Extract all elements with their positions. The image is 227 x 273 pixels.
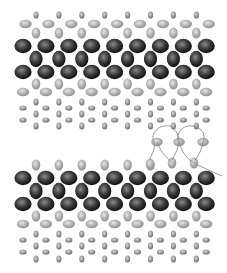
light-vertical-bead <box>55 27 64 38</box>
light-horizontal-bead <box>42 20 54 28</box>
light-vertical-bead <box>100 27 109 38</box>
light-vertical-bead <box>78 78 87 89</box>
small-vertical-bead <box>102 230 107 237</box>
small-vertical-bead <box>102 242 107 249</box>
dark-vertical-bead <box>190 183 203 199</box>
small-horizontal-bead <box>134 117 141 122</box>
small-vertical-bead <box>102 98 107 105</box>
light-vertical-bead <box>146 27 155 38</box>
small-horizontal-bead <box>180 237 187 242</box>
dark-vertical-bead <box>167 51 180 67</box>
small-vertical-bead <box>125 230 130 237</box>
small-horizontal-bead <box>157 249 164 254</box>
dark-large-bead <box>14 197 31 211</box>
small-horizontal-bead <box>111 105 118 110</box>
light-vertical-bead <box>192 27 201 38</box>
light-vertical-bead <box>169 78 178 89</box>
dark-large-bead <box>175 197 192 211</box>
beadwork-illustration <box>0 0 227 273</box>
small-vertical-bead <box>125 255 130 262</box>
small-vertical-bead <box>148 242 153 249</box>
small-vertical-bead <box>194 98 199 105</box>
light-horizontal-bead <box>131 88 143 96</box>
small-horizontal-bead <box>180 249 187 254</box>
light-horizontal-bead <box>177 88 189 96</box>
beadwork-diagram <box>0 0 227 273</box>
light-vertical-bead <box>78 210 87 221</box>
dark-large-bead <box>14 171 31 185</box>
small-horizontal-bead <box>19 237 26 242</box>
small-vertical-bead <box>79 11 84 18</box>
small-horizontal-bead <box>180 117 187 122</box>
small-horizontal-bead <box>65 237 72 242</box>
small-vertical-bead <box>148 110 153 117</box>
small-horizontal-bead <box>111 237 118 242</box>
thread-layer <box>150 126 222 176</box>
light-horizontal-bead <box>86 220 98 228</box>
small-horizontal-bead <box>42 105 49 110</box>
light-horizontal-bead <box>108 220 120 228</box>
small-horizontal-bead <box>88 249 95 254</box>
small-vertical-bead <box>33 110 38 117</box>
small-vertical-bead <box>56 98 61 105</box>
dark-vertical-bead <box>98 51 111 67</box>
dark-large-bead <box>175 39 192 53</box>
dark-large-bead <box>83 65 100 79</box>
light-horizontal-bead <box>177 220 189 228</box>
light-horizontal-bead <box>88 20 100 28</box>
dark-large-bead <box>37 197 54 211</box>
light-vertical-bead <box>146 210 155 221</box>
dark-large-bead <box>152 171 169 185</box>
light-horizontal-bead <box>131 220 143 228</box>
light-vertical-bead <box>78 27 87 38</box>
dark-vertical-bead <box>75 51 88 67</box>
small-horizontal-bead <box>157 237 164 242</box>
small-vertical-bead <box>194 110 199 117</box>
dark-large-bead <box>129 65 146 79</box>
small-horizontal-bead <box>65 117 72 122</box>
small-horizontal-bead <box>203 117 210 122</box>
dark-large-bead <box>37 65 54 79</box>
dark-vertical-bead <box>52 51 65 67</box>
light-vertical-bead <box>32 78 41 89</box>
dark-large-bead <box>60 197 77 211</box>
small-horizontal-bead <box>111 249 118 254</box>
light-vertical-bead <box>32 210 41 221</box>
light-vertical-bead <box>55 78 64 89</box>
dark-large-bead <box>129 39 146 53</box>
light-horizontal-bead <box>19 20 31 28</box>
dark-large-bead <box>83 171 100 185</box>
small-vertical-bead <box>125 122 130 129</box>
small-vertical-bead <box>171 11 176 18</box>
light-horizontal-bead <box>203 20 215 28</box>
dark-large-bead <box>37 171 54 185</box>
small-horizontal-bead <box>42 117 49 122</box>
small-vertical-bead <box>148 11 153 18</box>
dark-vertical-bead <box>98 183 111 199</box>
small-vertical-bead <box>148 230 153 237</box>
small-horizontal-bead <box>88 237 95 242</box>
dark-vertical-bead <box>29 183 42 199</box>
small-horizontal-bead <box>134 249 141 254</box>
light-horizontal-bead <box>111 20 123 28</box>
light-vertical-bead <box>55 210 64 221</box>
dark-large-bead <box>152 197 169 211</box>
light-vertical-bead <box>123 27 132 38</box>
small-vertical-bead <box>125 242 130 249</box>
small-horizontal-bead <box>88 117 95 122</box>
light-vertical-bead <box>32 159 41 170</box>
dark-large-bead <box>37 39 54 53</box>
small-vertical-bead <box>125 98 130 105</box>
small-vertical-bead <box>171 98 176 105</box>
light-horizontal-bead <box>40 88 52 96</box>
dark-vertical-bead <box>167 183 180 199</box>
small-vertical-bead <box>102 122 107 129</box>
small-vertical-bead <box>148 255 153 262</box>
small-horizontal-bead <box>19 249 26 254</box>
dark-large-bead <box>175 65 192 79</box>
light-horizontal-bead <box>180 20 192 28</box>
light-horizontal-bead <box>200 220 212 228</box>
small-horizontal-bead <box>19 117 26 122</box>
dark-large-bead <box>60 39 77 53</box>
dark-large-bead <box>198 65 215 79</box>
